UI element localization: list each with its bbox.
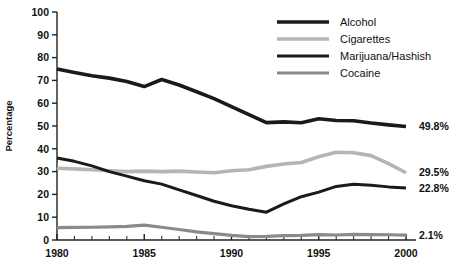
series-line-cigarettes — [57, 152, 406, 173]
x-axis: 19801985199019952000 — [45, 234, 418, 259]
y-tick-label: 80 — [37, 51, 49, 63]
y-tick-label: 50 — [37, 120, 49, 132]
y-axis-title: Percentage — [3, 100, 14, 151]
line-chart: 0102030405060708090100 19801985199019952… — [0, 0, 462, 268]
series-line-marijuana-hashish — [57, 158, 406, 212]
end-label-alcohol: 49.8% — [419, 120, 449, 132]
legend-label-cocaine: Cocaine — [340, 67, 380, 79]
end-label-cigarettes: 29.5% — [419, 166, 449, 178]
y-tick-label: 20 — [37, 188, 49, 200]
end-label-marijuana-hashish: 22.8% — [419, 182, 449, 194]
x-tick-label: 1980 — [45, 247, 69, 259]
y-tick-label: 30 — [37, 165, 49, 177]
legend-label-alcohol: Alcohol — [340, 16, 376, 28]
x-tick-label: 1990 — [220, 247, 244, 259]
y-axis: 0102030405060708090100 — [31, 6, 57, 246]
x-tick-label: 2000 — [394, 247, 418, 259]
end-label-cocaine: 2.1% — [419, 229, 444, 241]
y-tick-label: 40 — [37, 143, 49, 155]
end-value-labels: 49.8%29.5%22.8%2.1% — [419, 120, 449, 241]
x-tick-label: 1995 — [307, 247, 331, 259]
series-line-cocaine — [57, 225, 406, 236]
data-series-group — [57, 69, 406, 237]
y-tick-label: 10 — [37, 211, 49, 223]
y-tick-label: 60 — [37, 97, 49, 109]
y-tick-label: 90 — [37, 29, 49, 41]
chart-legend: AlcoholCigarettesMarijuana/HashishCocain… — [277, 16, 431, 79]
x-tick-label: 1985 — [133, 247, 157, 259]
legend-label-marijuana-hashish: Marijuana/Hashish — [340, 50, 431, 62]
chart-container: 0102030405060708090100 19801985199019952… — [0, 0, 462, 268]
y-tick-label: 70 — [37, 74, 49, 86]
y-tick-label: 0 — [43, 234, 49, 246]
legend-label-cigarettes: Cigarettes — [340, 33, 391, 45]
y-tick-label: 100 — [31, 6, 49, 18]
